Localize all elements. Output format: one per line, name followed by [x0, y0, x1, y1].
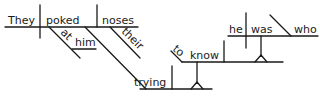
word-verb: poked	[46, 14, 79, 27]
word-participle: trying	[134, 76, 166, 89]
word-infinitive-verb: know	[190, 49, 219, 62]
sentence-diagram: They poked noses at him their trying to …	[0, 0, 320, 106]
word-prep: at	[58, 26, 75, 43]
word-clause-complement: who	[294, 23, 317, 36]
clause-pedestal-foot	[255, 55, 267, 62]
word-clause-verb: was	[251, 23, 273, 36]
word-prep-object: him	[75, 36, 96, 49]
word-infinitive-to: to	[170, 42, 187, 59]
word-clause-subject: he	[229, 23, 243, 36]
word-possessive: their	[119, 25, 147, 53]
clause-complement-divider	[270, 15, 291, 36]
word-subject: They	[7, 14, 35, 27]
infinitive-pedestal-foot	[191, 82, 203, 89]
